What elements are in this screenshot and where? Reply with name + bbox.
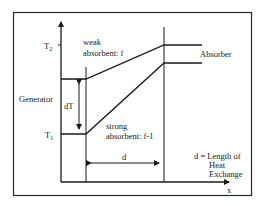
dT-label: dT	[64, 101, 74, 111]
strong-absorbent-label-1: strong	[106, 121, 128, 131]
weak-absorbent-label-1: weak	[83, 37, 102, 47]
strong-absorbent-label-2: absorbent: f-1	[106, 131, 153, 141]
weak-absorbent-label-2: absorbent: f	[83, 48, 124, 58]
legend-line-3: Exchange	[209, 169, 243, 179]
absorber-label: Absorber	[200, 49, 232, 59]
heat-exchange-diagram: T2 T1 weak absorbent: f strong absorbent…	[0, 0, 265, 206]
generator-label: Generator	[19, 94, 53, 104]
